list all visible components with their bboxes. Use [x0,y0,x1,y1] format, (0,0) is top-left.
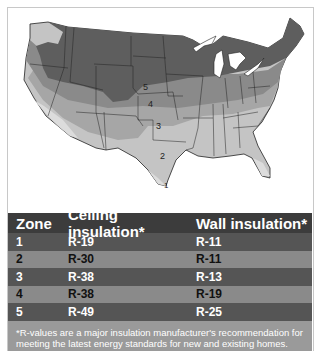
ceiling-cell: R-19 [68,235,196,249]
table-row: 1 R-19 R-11 [8,233,312,251]
ceiling-cell: R-38 [68,270,196,284]
ceiling-cell: R-38 [68,287,196,301]
us-insulation-zone-map: 5 4 3 2 1 [8,8,312,213]
header-zone: Zone [8,215,68,232]
wall-cell: R-11 [196,235,312,249]
table-header: Zone Ceiling insulation* Wall insulation… [8,213,312,233]
header-wall: Wall insulation* [196,215,312,232]
zone-label-5: 5 [143,82,148,92]
zone-cell: 1 [8,235,68,249]
zone-cell: 3 [8,270,68,284]
ceiling-cell: R-49 [68,305,196,319]
footnote: *R-values are a major insulation manufac… [8,321,312,351]
wall-cell: R-13 [196,270,312,284]
zone-label-2: 2 [160,151,165,161]
zone-cell: 2 [8,252,68,266]
table-row: 5 R-49 R-25 [8,303,312,321]
zone-label-1: 1 [164,181,169,190]
wall-cell: R-19 [196,287,312,301]
zone-cell: 4 [8,287,68,301]
ceiling-cell: R-30 [68,252,196,266]
insulation-table: Zone Ceiling insulation* Wall insulation… [8,213,312,351]
zone-label-4: 4 [148,99,153,109]
wall-cell: R-11 [196,252,312,266]
wall-cell: R-25 [196,305,312,319]
zone-cell: 5 [8,305,68,319]
zone-label-3: 3 [156,121,161,131]
table-row: 2 R-30 R-11 [8,251,312,269]
table-row: 4 R-38 R-19 [8,286,312,304]
table-row: 3 R-38 R-13 [8,268,312,286]
